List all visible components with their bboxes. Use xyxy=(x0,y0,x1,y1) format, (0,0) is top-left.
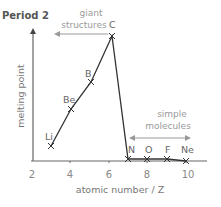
melting-point-chart: Period 2 2 4 6 8 10 atomic number / Z me… xyxy=(0,0,221,207)
element-label-be: Be xyxy=(63,94,76,105)
giant-label-line2: structures xyxy=(61,20,107,30)
x-tick-label: 10 xyxy=(182,169,195,180)
y-axis-label: melting point xyxy=(15,64,26,128)
x-axis-label: atomic number / Z xyxy=(76,184,165,195)
element-label-c: C xyxy=(109,19,116,30)
element-label-ne: Ne xyxy=(181,144,194,155)
simple-label-line2: molecules xyxy=(145,121,191,131)
x-tick-label: 8 xyxy=(144,169,150,180)
element-label-b: B xyxy=(85,68,92,79)
x-tick-label: 6 xyxy=(106,169,112,180)
element-label-o: O xyxy=(145,144,152,155)
x-tick-label: 2 xyxy=(29,169,35,180)
simple-label-line1: simple xyxy=(157,109,187,119)
giant-label-line1: giant xyxy=(80,8,103,18)
element-label-n: N xyxy=(128,144,135,155)
element-label-f: F xyxy=(165,144,170,155)
chart-title: Period 2 xyxy=(2,10,49,21)
x-tick-label: 4 xyxy=(67,169,73,180)
element-label-li: Li xyxy=(45,131,53,142)
